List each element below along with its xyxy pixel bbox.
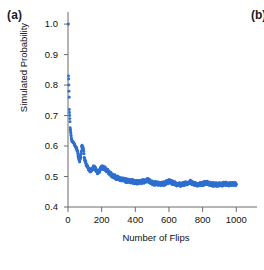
y-tick-label: 0.5 [32,172,58,182]
y-tick-label: 1.0 [32,19,58,29]
figure-panel-a: (a) (b) Simulated Probability Number of … [0,0,264,270]
axis-spines [68,12,257,207]
y-tick-label: 0.8 [32,80,58,90]
scatter-plot-canvas [0,0,264,270]
data-series-points [67,23,238,188]
y-tick-label: 0.9 [32,50,58,60]
y-tick-label: 0.7 [32,111,58,121]
y-tick-label: 0.6 [32,141,58,151]
x-axis-ticks [68,207,236,212]
y-tick-label: 0.4 [32,202,58,212]
x-tick-label: 1000 [216,215,256,225]
y-axis-ticks [64,24,68,207]
